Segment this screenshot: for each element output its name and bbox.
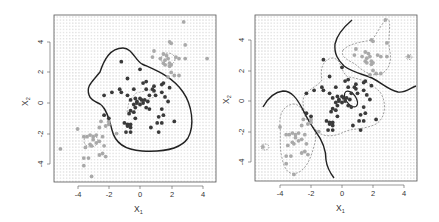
light-data-point: [407, 55, 411, 59]
right-x-tick-label: -2: [308, 189, 315, 198]
right-x-axis-title: X1: [336, 203, 345, 214]
dark-data-point: [102, 93, 106, 97]
dark-data-point: [336, 104, 340, 108]
light-data-point: [76, 127, 80, 131]
dark-data-point: [126, 124, 130, 128]
light-data-point: [59, 147, 63, 151]
dark-data-point: [362, 81, 366, 85]
dark-data-point: [337, 99, 341, 103]
left-panel: -4 -2 0 2 4 X1 -4 -2 0 2 4 X2: [20, 15, 216, 215]
light-data-point: [360, 55, 364, 59]
light-data-point: [371, 69, 375, 73]
light-data-point: [101, 152, 105, 156]
light-data-point: [371, 39, 375, 43]
light-data-point: [368, 73, 372, 77]
dark-data-point: [346, 78, 350, 82]
left-x-axis-title: X1: [134, 204, 143, 215]
dark-data-point: [132, 110, 136, 114]
light-data-point: [158, 57, 162, 61]
dark-data-point: [357, 119, 361, 123]
dark-data-point: [374, 118, 378, 122]
light-data-point: [169, 71, 173, 75]
light-data-point: [385, 55, 389, 59]
right-y-tick-label: -4: [237, 159, 246, 166]
light-data-point: [385, 41, 389, 45]
left-y-tick-label: 4: [36, 40, 45, 44]
dark-data-point: [346, 85, 350, 89]
light-data-point: [172, 74, 176, 78]
light-data-point: [169, 63, 173, 67]
light-data-point: [303, 150, 307, 154]
dark-data-point: [305, 111, 309, 115]
left-y-axis-title: X2: [20, 97, 31, 106]
left-y-axis: -4 -2 0 2 4 X2: [20, 40, 50, 167]
light-data-point: [115, 132, 119, 136]
light-data-point: [177, 57, 181, 61]
light-data-point: [102, 144, 106, 148]
dark-data-point: [144, 87, 148, 91]
dark-data-point: [362, 88, 366, 92]
dark-data-point: [135, 101, 139, 105]
dark-data-point: [351, 124, 355, 128]
light-data-point: [104, 155, 108, 159]
right-y-tick-label: 4: [237, 38, 246, 42]
light-data-point: [303, 133, 307, 137]
light-data-point: [305, 142, 309, 146]
dark-data-point: [148, 93, 152, 97]
right-y-tick-label: 2: [237, 69, 246, 73]
light-data-point: [317, 130, 321, 134]
dark-data-point: [365, 93, 369, 97]
dark-data-point: [336, 114, 340, 118]
dark-data-point: [328, 122, 332, 126]
dark-data-point: [359, 128, 363, 132]
light-data-point: [183, 57, 187, 61]
dark-data-point: [102, 113, 106, 117]
dark-data-point: [110, 90, 114, 94]
light-data-point: [84, 146, 88, 150]
right-y-axis-title: X2: [221, 95, 232, 104]
light-data-point: [205, 57, 209, 61]
light-data-point: [353, 53, 357, 57]
right-x-tick-label: 4: [402, 189, 406, 198]
light-data-point: [152, 49, 156, 53]
right-x-tick-label: 0: [340, 189, 344, 198]
light-data-point: [82, 164, 86, 168]
light-data-point: [292, 142, 296, 146]
light-data-point: [306, 153, 310, 157]
dark-data-point: [348, 98, 352, 102]
dark-data-point: [172, 120, 176, 124]
dark-data-point: [132, 87, 136, 91]
dark-data-point: [157, 115, 161, 119]
dark-data-point: [163, 95, 167, 99]
left-x-tick-label: -2: [106, 190, 113, 199]
dark-data-point: [157, 130, 161, 134]
light-data-point: [294, 136, 298, 140]
dark-data-point: [356, 91, 360, 95]
light-data-point: [91, 138, 95, 142]
dark-data-point: [354, 87, 358, 91]
dark-data-point: [160, 107, 164, 111]
left-x-tick-label: -4: [75, 190, 82, 199]
dark-data-point: [328, 91, 332, 95]
dark-data-point: [334, 108, 338, 112]
dark-data-point: [155, 121, 159, 125]
dark-data-point: [309, 114, 313, 118]
right-panel: -4 -2 0 2 4 X1 -4 -2 0 2 4 X2: [221, 15, 417, 214]
right-y-tick-label: -2: [237, 129, 246, 136]
dark-data-point: [328, 75, 332, 79]
dark-data-point: [148, 107, 152, 111]
light-data-point: [278, 125, 282, 129]
dark-data-point: [322, 58, 326, 62]
light-data-point: [371, 61, 375, 65]
light-data-point: [365, 61, 369, 65]
dark-data-point: [127, 112, 131, 116]
light-data-point: [166, 75, 170, 79]
light-data-point: [286, 144, 290, 148]
light-data-point: [292, 173, 296, 177]
light-data-point: [163, 63, 167, 67]
dark-data-point: [129, 130, 133, 134]
dark-data-point: [160, 83, 164, 87]
dark-data-point: [133, 106, 137, 110]
dark-data-point: [119, 60, 123, 64]
light-data-point: [297, 131, 301, 135]
